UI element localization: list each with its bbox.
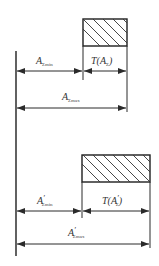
label-top-min: AΣmin bbox=[35, 55, 53, 67]
top-group: AΣmin T(AΣ) AΣmax bbox=[17, 16, 154, 112]
tolerance-zone-box-top bbox=[83, 19, 127, 46]
label-bottom-max: A′Σmax bbox=[67, 226, 85, 239]
label-bottom-min: A′Σmin bbox=[36, 194, 53, 207]
hatch-pattern-bottom bbox=[70, 152, 159, 186]
label-bottom-tolerance: T(A′Σ) bbox=[102, 194, 123, 207]
bottom-group: A′Σmin T(A′Σ) A′Σmax bbox=[17, 152, 159, 248]
dimension-diagram: AΣmin T(AΣ) AΣmax A′Σmin bbox=[0, 0, 159, 266]
label-top-tolerance: T(AΣ) bbox=[91, 55, 113, 67]
label-top-max: AΣmax bbox=[61, 91, 80, 103]
